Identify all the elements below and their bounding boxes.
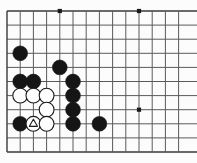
stone-disc [92,116,107,131]
black-stone[interactable] [66,116,81,131]
black-stone[interactable] [52,60,67,75]
black-stone[interactable] [13,74,28,89]
stone-disc [66,102,81,117]
black-stone[interactable] [13,116,28,131]
go-diagram [0,0,197,163]
stone-disc [52,60,67,75]
stone-disc [66,116,81,131]
stone-disc [39,102,54,117]
white-stone[interactable] [39,116,54,131]
white-stone[interactable] [39,102,54,117]
stone-disc [13,116,28,131]
stone-disc [39,88,54,103]
white-stone[interactable] [26,88,41,103]
white-stone[interactable] [39,88,54,103]
stone-disc [26,88,41,103]
white-stone[interactable] [13,88,28,103]
stone-disc [66,74,81,89]
star-point [137,9,141,13]
black-stone[interactable] [66,102,81,117]
black-stone[interactable] [92,116,107,131]
black-stone[interactable] [26,74,41,89]
black-stone[interactable] [13,46,28,61]
go-board[interactable] [0,0,197,163]
star-point [137,108,141,112]
white-stone[interactable] [26,116,41,131]
stone-disc [66,88,81,103]
stone-disc [26,116,41,131]
black-stone[interactable] [66,88,81,103]
black-stone[interactable] [66,74,81,89]
star-point [58,9,62,13]
stone-disc [26,74,41,89]
stone-disc [13,46,28,61]
stone-disc [13,74,28,89]
stone-disc [39,116,54,131]
stone-disc [13,88,28,103]
